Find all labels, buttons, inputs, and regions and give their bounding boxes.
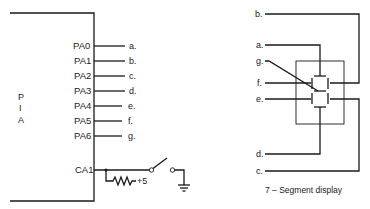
signal-label: f. [128,116,133,126]
supply-label: +5 [137,176,147,186]
signal-label: c. [129,71,136,81]
pin-pa2: PA2 c. [74,70,136,81]
pin-pa3: PA3 d. [74,85,137,96]
input-label-b: b. [255,9,263,19]
pia-letter-p: P [18,92,24,102]
input-label-c: c. [256,166,263,176]
pin-label: PA0 [73,40,90,51]
segment-display-block: b. a. g. f. e. d. c. [255,9,359,195]
ca1-pin-label: CA1 [75,164,93,175]
pin-label: PA3 [74,85,91,96]
pin-label: PA4 [74,100,91,111]
wire-d [265,107,320,154]
pin-pa5: PA5 f. [74,115,133,126]
wire-g [265,61,318,91]
input-label-d: d. [256,149,264,159]
pin-label: PA1 [74,55,91,66]
pin-pa0: PA0 a. [73,40,137,51]
pin-pa6: PA6 g. [74,130,136,141]
wire-c [265,99,359,171]
input-label-g: g. [256,56,264,66]
signal-label: b. [129,56,137,66]
ground-wire [175,170,184,185]
pin-label: PA6 [74,130,91,141]
input-label-f: f. [257,78,262,88]
pin-pa1: PA1 b. [74,55,137,66]
display-caption: 7 – Segment display [265,185,343,195]
switch-arm-icon [153,158,167,169]
segment-glyphs [312,76,328,107]
input-label-a: a. [256,40,264,50]
circuit-diagram: P I A PA0 a. PA1 b. PA2 c. PA3 d. PA4 e.… [0,0,370,209]
pin-label: PA5 [74,115,91,126]
pia-letter-a: A [18,115,24,125]
ca1-circuit: CA1 +5 [75,158,190,191]
resistor-icon [106,170,136,185]
wire-a [265,45,320,76]
pin-pa4: PA4 e. [74,100,136,111]
pin-label: PA2 [74,70,91,81]
signal-label: a. [129,41,137,51]
signal-label: d. [129,86,137,96]
pia-letter-i: I [19,103,22,113]
input-label-e: e. [256,94,264,104]
ground-icon [178,185,190,191]
signal-label: e. [128,101,136,111]
wire-b [265,14,359,83]
switch-contact-right [170,168,174,172]
signal-label: g. [128,131,136,141]
